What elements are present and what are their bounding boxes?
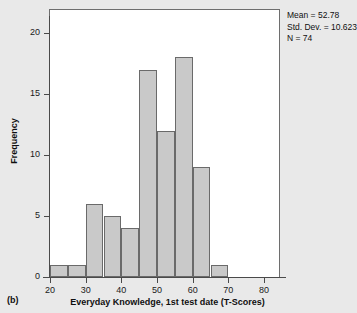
histogram-bar — [50, 265, 68, 277]
x-axis-tick-label: 80 — [249, 285, 279, 295]
histogram-bar — [121, 228, 139, 277]
x-axis-tick-label: 20 — [35, 285, 65, 295]
y-axis-tick-label: 0 — [10, 271, 40, 281]
y-axis-line — [49, 16, 50, 278]
stat-mean: Mean = 52.78 — [287, 10, 357, 22]
bar-series — [50, 10, 278, 277]
panel-label: (b) — [7, 295, 19, 305]
x-axis-tick — [264, 278, 265, 283]
x-axis-tick-label: 40 — [106, 285, 136, 295]
x-axis-tick — [121, 278, 122, 283]
x-axis-tick — [228, 278, 229, 283]
y-axis-tick — [44, 216, 49, 217]
y-axis-tick — [44, 155, 49, 156]
x-axis-tick — [50, 278, 51, 283]
statistics-annotation: Mean = 52.78 Std. Dev. = 10.623 N = 74 — [287, 10, 357, 45]
x-axis-tick-label: 60 — [178, 285, 208, 295]
histogram-bar — [139, 70, 157, 277]
x-axis-tick — [157, 278, 158, 283]
x-axis-tick-label: 50 — [142, 285, 172, 295]
y-axis-title: Frequency — [9, 81, 19, 201]
plot-area — [50, 10, 278, 278]
histogram-bar — [211, 265, 229, 277]
stat-stddev: Std. Dev. = 10.623 — [287, 22, 357, 34]
x-axis-title: Everyday Knowledge, 1st test date (T-Sco… — [40, 297, 295, 307]
x-axis-line — [43, 277, 286, 278]
y-axis-tick — [44, 33, 49, 34]
histogram-bar — [68, 265, 86, 277]
x-axis-tick-label: 70 — [213, 285, 243, 295]
histogram-bar — [193, 167, 211, 277]
y-axis-tick — [44, 94, 49, 95]
y-axis-tick — [44, 277, 49, 278]
y-axis-tick-label: 5 — [10, 210, 40, 220]
histogram-bar — [86, 204, 104, 277]
x-axis-tick — [86, 278, 87, 283]
histogram-bar — [104, 216, 122, 277]
y-axis-tick-label: 20 — [10, 27, 40, 37]
histogram-bar — [175, 57, 193, 277]
stat-n: N = 74 — [287, 33, 357, 45]
histogram-bar — [157, 131, 175, 277]
x-axis-tick-label: 30 — [71, 285, 101, 295]
x-axis-tick — [193, 278, 194, 283]
